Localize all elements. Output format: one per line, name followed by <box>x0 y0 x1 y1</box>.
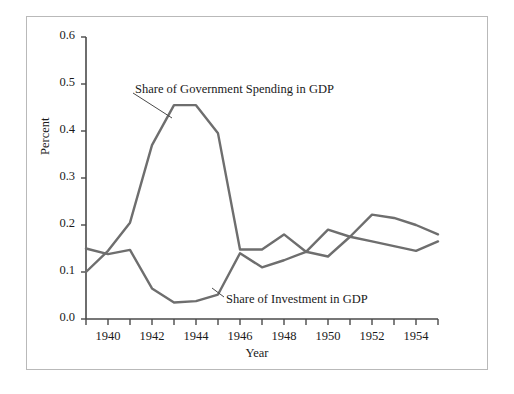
series-line-2 <box>86 215 438 303</box>
series-line-1 <box>86 105 438 272</box>
series-lines <box>86 105 438 302</box>
tick-marks <box>81 37 438 325</box>
axis-lines <box>86 37 438 319</box>
plot-area <box>0 0 514 394</box>
figure-canvas: Percent Year 0.00.10.20.30.40.50.6 19401… <box>0 0 514 394</box>
annotation-leader-1 <box>133 93 172 118</box>
